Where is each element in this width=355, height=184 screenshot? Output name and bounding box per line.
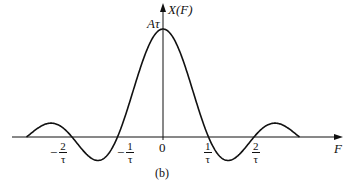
tick-label-neg-2-over-tau: − 2τ (50, 141, 67, 165)
origin-label: 0 (159, 141, 166, 154)
tick-label-2-over-tau: 2τ (252, 141, 260, 165)
y-axis-arrow-icon (160, 3, 166, 12)
x-axis-arrow-icon (334, 134, 343, 140)
figure-caption: (b) (155, 167, 169, 179)
x-axis-label: F (334, 142, 342, 155)
y-axis-label: X(F) (168, 3, 193, 16)
tick-label-1-over-tau: 1τ (204, 141, 212, 165)
peak-label: Aτ (147, 17, 160, 30)
tick-label-neg-1-over-tau: − 1τ (117, 141, 134, 165)
